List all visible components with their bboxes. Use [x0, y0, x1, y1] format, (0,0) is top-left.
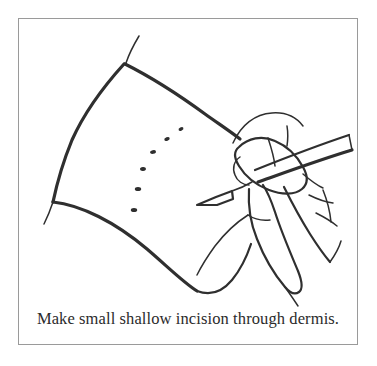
index-finger-tip-line	[285, 287, 298, 306]
index-finger-outline	[249, 185, 302, 293]
knuckle-fold-5	[330, 241, 341, 262]
incision-guide-dots	[131, 126, 184, 212]
surgical-illustration: .ink { fill: none; stroke: #2f2f2f; stro…	[19, 19, 356, 343]
thumb-base-crease	[268, 138, 275, 166]
incision-dot	[140, 167, 146, 171]
incision-dot	[131, 208, 137, 212]
skin-edge-bottom-right	[197, 244, 251, 293]
hand-back-contour	[284, 187, 330, 262]
knuckle-fold-3	[316, 213, 337, 226]
skin-left-tail	[44, 202, 53, 224]
skin-flap-group	[44, 36, 251, 293]
scalpel-group	[197, 135, 352, 205]
figure-caption: Make small shallow incision through derm…	[19, 310, 357, 328]
figure-root: .ink { fill: none; stroke: #2f2f2f; stro…	[0, 0, 377, 366]
incision-dot	[150, 150, 157, 155]
figure-frame: .ink { fill: none; stroke: #2f2f2f; stro…	[18, 18, 358, 345]
hand-tendon-tick	[287, 126, 288, 146]
knuckle-fold-2	[309, 195, 333, 203]
skin-edge-left	[53, 64, 124, 202]
scalpel-handle-lower-edge	[258, 150, 352, 182]
incision-dot	[135, 187, 141, 191]
scalpel-handle-end	[349, 135, 352, 150]
illustration-area: .ink { fill: none; stroke: #2f2f2f; stro…	[19, 19, 357, 344]
hand-group	[197, 113, 341, 306]
skin-top-tail	[126, 36, 139, 63]
skin-edge-bottom	[53, 202, 197, 291]
incision-dot	[164, 136, 170, 141]
scalpel-blade	[197, 191, 233, 205]
incision-dot	[178, 126, 184, 131]
